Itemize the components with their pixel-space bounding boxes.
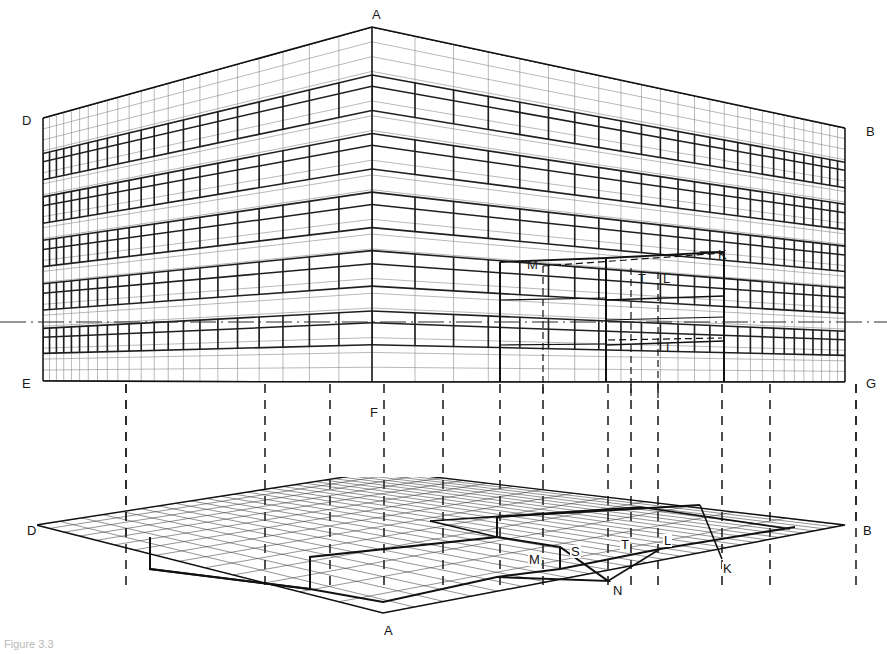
- elevation-label-m: M: [527, 258, 538, 271]
- plan-label-d: D: [26, 524, 37, 537]
- plan-label-m: M: [528, 553, 541, 566]
- elevation-label-l: L: [663, 272, 670, 285]
- perspective-plan: [0, 477, 887, 654]
- plan-label-l: L: [663, 534, 672, 547]
- elevation-label-k: K: [718, 248, 727, 261]
- perspective-elevation: [0, 0, 887, 420]
- elevation-label-a: A: [372, 8, 381, 21]
- plan-label-t: T: [620, 538, 630, 551]
- elevation-label-g: G: [866, 377, 876, 390]
- plan-label-a: A: [383, 624, 394, 637]
- plan-label-b: B: [862, 524, 873, 537]
- elevation-label-t: T: [638, 272, 646, 285]
- right-face-grid: [372, 27, 845, 382]
- plan-label-n: N: [612, 584, 623, 597]
- left-face-grid: [43, 27, 372, 382]
- elevation-label-f: F: [370, 406, 378, 419]
- plan-label-s: S: [570, 545, 581, 558]
- elevation-label-l2: L: [666, 341, 673, 354]
- elevation-label-e: E: [22, 377, 31, 390]
- figure-caption: Figure 3.3: [4, 638, 54, 650]
- plan-label-k: K: [722, 562, 733, 575]
- elevation-label-d: D: [22, 114, 31, 127]
- elevation-label-b: B: [866, 125, 875, 138]
